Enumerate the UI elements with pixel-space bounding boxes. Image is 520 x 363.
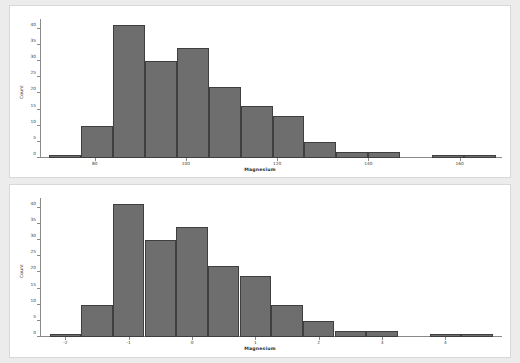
y-tick-bottom	[37, 320, 40, 321]
y-tick-bottom	[37, 271, 40, 272]
x-axis-label-top: Magnesium	[10, 167, 510, 172]
y-tick-label-bottom: 20	[31, 265, 36, 270]
y-tick-label-top: 0	[33, 151, 36, 156]
y-tick-bottom	[37, 336, 40, 337]
x-tick-label-bottom: 0	[191, 340, 194, 345]
histogram-bar	[368, 152, 400, 158]
histogram-bar	[273, 116, 305, 158]
histogram-bar	[113, 25, 145, 158]
y-axis-label-top: Count	[19, 84, 24, 98]
histogram-panel-top: Count Magnesium 051015202530354080100120…	[9, 5, 511, 178]
histogram-bar	[208, 266, 240, 337]
x-tick-label-bottom: 3	[381, 340, 384, 345]
y-tick-bottom	[37, 255, 40, 256]
y-tick-top	[37, 141, 40, 142]
y-tick-label-top: 20	[31, 86, 36, 91]
histogram-bar	[464, 155, 496, 158]
x-tick-label-top: 120	[273, 161, 281, 166]
y-tick-label-bottom: 35	[31, 216, 36, 221]
y-tick-top	[37, 157, 40, 158]
y-tick-bottom	[37, 223, 40, 224]
y-tick-label-top: 10	[31, 118, 36, 123]
y-tick-label-top: 5	[33, 134, 36, 139]
y-tick-label-top: 35	[31, 37, 36, 42]
plot-area-bottom: Count Magnesium 0510152025303540-2-10123…	[10, 185, 510, 357]
histogram-bar	[145, 61, 177, 158]
x-tick-label-top: 80	[92, 161, 97, 166]
axes-top: 051015202530354080100120140160	[40, 19, 496, 158]
y-tick-label-bottom: 15	[31, 281, 36, 286]
histogram-panel-bottom: Count Magnesium 0510152025303540-2-10123…	[9, 184, 511, 358]
x-tick-label-bottom: 2	[317, 340, 320, 345]
y-axis-label-bottom: Count	[19, 264, 24, 278]
y-tick-top	[37, 109, 40, 110]
histogram-bar	[145, 240, 177, 337]
y-tick-label-bottom: 5	[33, 313, 36, 318]
y-tick-label-bottom: 0	[33, 330, 36, 335]
y-tick-label-top: 25	[31, 70, 36, 75]
y-tick-label-bottom: 30	[31, 233, 36, 238]
histogram-bar	[177, 48, 209, 158]
y-tick-bottom	[37, 288, 40, 289]
histogram-bar	[240, 276, 272, 337]
x-tick-label-bottom: 4	[444, 340, 447, 345]
histogram-bar	[461, 334, 493, 337]
y-tick-bottom	[37, 207, 40, 208]
y-tick-top	[37, 125, 40, 126]
x-tick-label-top: 160	[455, 161, 463, 166]
histogram-bar	[81, 126, 113, 158]
histogram-bar	[176, 227, 208, 337]
y-tick-label-top: 40	[31, 21, 36, 26]
x-tick-label-bottom: -1	[127, 340, 131, 345]
y-tick-top	[37, 60, 40, 61]
bars-layer-bottom	[40, 198, 496, 337]
y-tick-top	[37, 28, 40, 29]
y-tick-top	[37, 76, 40, 77]
histogram-bar	[336, 152, 368, 158]
histogram-bar	[271, 305, 303, 337]
y-tick-label-bottom: 10	[31, 297, 36, 302]
x-tick-label-top: 100	[182, 161, 190, 166]
x-axis-label-bottom: Magnesium	[10, 346, 510, 351]
y-tick-label-top: 15	[31, 102, 36, 107]
bars-layer-top	[40, 19, 496, 158]
histogram-bar	[304, 142, 336, 158]
histogram-bar	[241, 106, 273, 158]
y-tick-top	[37, 92, 40, 93]
histogram-bar	[49, 155, 81, 158]
y-tick-label-bottom: 25	[31, 249, 36, 254]
y-tick-bottom	[37, 239, 40, 240]
histogram-bar	[303, 321, 335, 337]
axes-bottom: 0510152025303540-2-101234	[40, 198, 496, 337]
histogram-bar	[209, 87, 241, 158]
y-tick-label-top: 30	[31, 54, 36, 59]
plot-area-top: Count Magnesium 051015202530354080100120…	[10, 6, 510, 177]
x-tick-label-bottom: -2	[63, 340, 67, 345]
y-tick-bottom	[37, 304, 40, 305]
x-tick-label-bottom: 1	[254, 340, 257, 345]
histogram-bar	[113, 204, 145, 337]
x-tick-label-top: 140	[364, 161, 372, 166]
y-tick-top	[37, 44, 40, 45]
histogram-bar	[335, 331, 367, 337]
histogram-bar	[81, 305, 113, 337]
figure-canvas: Count Magnesium 051015202530354080100120…	[0, 0, 520, 363]
y-tick-label-bottom: 40	[31, 200, 36, 205]
